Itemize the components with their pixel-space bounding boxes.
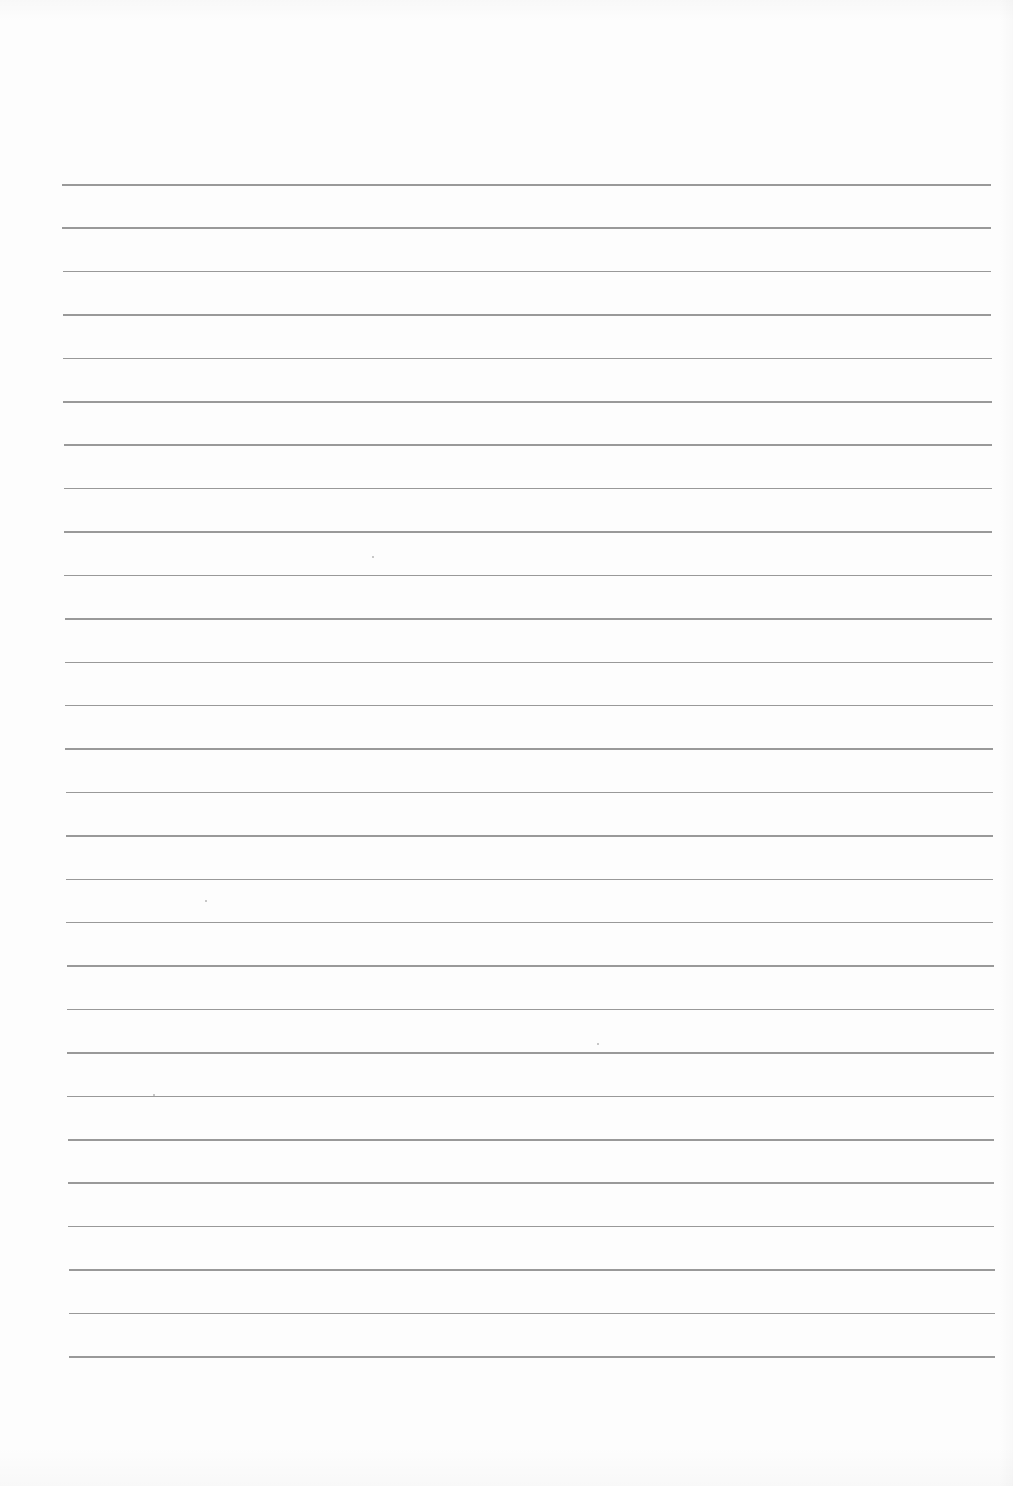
scan-speck — [153, 1094, 155, 1096]
ruled-line — [64, 488, 992, 490]
ruled-line — [66, 879, 993, 881]
ruled-line — [63, 314, 992, 316]
ruled-paper-sheet — [0, 0, 1013, 1486]
ruled-line — [67, 1096, 994, 1098]
scan-speck — [372, 556, 374, 558]
ruled-line — [68, 1182, 994, 1184]
ruled-line — [67, 1052, 994, 1054]
ruled-line — [62, 184, 991, 186]
ruled-line — [66, 835, 993, 837]
ruled-line — [65, 662, 993, 664]
ruled-line — [66, 922, 993, 924]
ruled-line — [65, 618, 993, 620]
ruled-line — [69, 1313, 995, 1315]
ruled-line — [64, 575, 992, 577]
ruled-line — [69, 1356, 995, 1358]
ruled-line — [62, 227, 991, 229]
ruled-line — [64, 531, 992, 533]
ruled-line — [68, 1226, 994, 1228]
ruled-line — [67, 965, 994, 967]
ruled-line — [64, 444, 992, 446]
scan-speck — [597, 1043, 599, 1045]
scan-speck — [205, 900, 207, 902]
ruled-line — [65, 748, 993, 750]
ruled-line — [67, 1009, 994, 1011]
ruled-line — [63, 271, 992, 273]
ruled-line — [69, 1269, 995, 1271]
ruled-line — [66, 792, 993, 794]
ruled-line — [65, 705, 993, 707]
ruled-line — [63, 358, 992, 360]
ruled-line — [68, 1139, 995, 1141]
ruled-line — [63, 401, 991, 403]
